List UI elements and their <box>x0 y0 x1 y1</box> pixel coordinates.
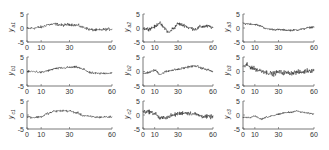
y-tick-label: -5 <box>234 39 240 46</box>
x-tick-label: 10 <box>37 88 45 95</box>
y-tick-label: 5 <box>136 54 140 61</box>
y-tick-label: 0 <box>136 25 140 32</box>
y-tick-label: -5 <box>134 126 140 133</box>
y-tick-label: 5 <box>236 98 240 105</box>
x-tick-label: 0 <box>25 131 29 138</box>
y-tick-label: -5 <box>234 83 240 90</box>
y-tick-label: -5 <box>18 83 24 90</box>
y-tick-label: 0 <box>236 68 240 75</box>
x-tick-label: 0 <box>25 44 29 51</box>
x-tick-label: 30 <box>66 44 74 51</box>
x-tick-label: 60 <box>209 131 217 138</box>
x-tick-label: 10 <box>151 88 159 95</box>
y-tick-label: -5 <box>234 126 240 133</box>
x-tick-label: 30 <box>66 88 74 95</box>
x-tick-label: 10 <box>251 131 259 138</box>
x-tick-label: 60 <box>108 44 116 51</box>
x-tick-label: 0 <box>241 88 245 95</box>
y-tick-label: 0 <box>136 112 140 119</box>
series-line-b1 <box>27 66 112 75</box>
x-tick-label: 60 <box>209 44 217 51</box>
x-tick-label: 60 <box>209 88 217 95</box>
x-tick-label: 0 <box>241 131 245 138</box>
x-tick-label: 10 <box>37 44 45 51</box>
y-tick-label: 0 <box>20 68 24 75</box>
series-line-b2 <box>143 65 213 75</box>
y-tick-label: 5 <box>20 54 24 61</box>
y-label-a1: ya1 <box>7 22 16 33</box>
y-tick-label: -5 <box>18 126 24 133</box>
y-tick-label: 0 <box>236 25 240 32</box>
y-label-c2: yc2 <box>123 109 132 120</box>
x-tick-label: 10 <box>151 44 159 51</box>
x-tick-label: 30 <box>174 88 182 95</box>
x-tick-label: 30 <box>275 44 283 51</box>
x-tick-label: 0 <box>141 88 145 95</box>
series-line-a2 <box>143 22 213 33</box>
y-tick-label: 5 <box>236 54 240 61</box>
y-tick-label: -5 <box>134 83 140 90</box>
series-line-c3 <box>243 110 314 119</box>
y-tick-label: 0 <box>20 25 24 32</box>
y-tick-label: 0 <box>136 68 140 75</box>
y-tick-label: 0 <box>20 112 24 119</box>
x-tick-label: 10 <box>251 44 259 51</box>
y-tick-label: 5 <box>136 98 140 105</box>
x-tick-label: 0 <box>241 44 245 51</box>
x-tick-label: 30 <box>174 44 182 51</box>
y-tick-label: -5 <box>134 39 140 46</box>
series-line-c1 <box>27 110 112 119</box>
y-tick-label: 5 <box>20 98 24 105</box>
x-tick-label: 60 <box>108 131 116 138</box>
series-line-a3 <box>243 22 314 31</box>
x-tick-label: 60 <box>310 44 318 51</box>
series-line-c2 <box>143 110 213 120</box>
series-line-b3 <box>243 62 314 76</box>
y-label-a3: ya3 <box>223 22 232 33</box>
y-tick-label: 5 <box>20 11 24 18</box>
y-label-b1: yb1 <box>7 65 16 76</box>
y-label-b3: yb3 <box>223 65 232 76</box>
x-tick-label: 30 <box>66 131 74 138</box>
x-tick-label: 60 <box>108 88 116 95</box>
x-tick-label: 10 <box>151 131 159 138</box>
x-tick-label: 30 <box>275 131 283 138</box>
y-tick-label: 0 <box>236 112 240 119</box>
x-tick-label: 30 <box>174 131 182 138</box>
series-line-a1 <box>27 23 112 31</box>
y-tick-label: -5 <box>18 39 24 46</box>
x-tick-label: 60 <box>310 88 318 95</box>
x-tick-label: 10 <box>251 88 259 95</box>
y-tick-label: 5 <box>136 11 140 18</box>
y-label-c3: yc3 <box>223 109 232 120</box>
y-tick-label: 5 <box>236 11 240 18</box>
x-tick-label: 0 <box>141 44 145 51</box>
x-tick-label: 10 <box>37 131 45 138</box>
y-label-a2: ya2 <box>123 22 132 33</box>
subplot-grid-figure: 50-50103060ya150-50103060ya250-50103060y… <box>0 0 329 150</box>
x-tick-label: 30 <box>275 88 283 95</box>
y-label-c1: yc1 <box>7 109 16 120</box>
y-label-b2: yb2 <box>123 65 132 76</box>
x-tick-label: 60 <box>310 131 318 138</box>
x-tick-label: 0 <box>141 131 145 138</box>
x-tick-label: 0 <box>25 88 29 95</box>
